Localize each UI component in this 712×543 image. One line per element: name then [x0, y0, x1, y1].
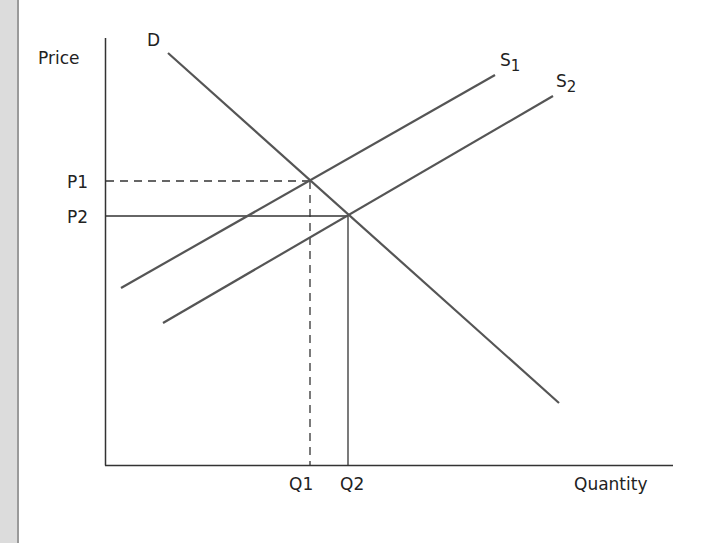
s1-label-main: S — [500, 50, 511, 70]
supply-curve-s2 — [163, 96, 553, 323]
demand-label: D — [147, 30, 160, 50]
p2-tick-label: P2 — [67, 207, 88, 227]
q2-tick-label: Q2 — [340, 474, 364, 494]
q1-tick-label: Q1 — [289, 474, 313, 494]
y-axis-label: Price — [38, 48, 79, 68]
s2-label-main: S — [556, 71, 567, 91]
supply-demand-chart: Price D S1 S2 P1 P2 Q1 Q2 Quantity — [0, 0, 712, 543]
p1-tick-label: P1 — [67, 172, 88, 192]
s1-label-sub: 1 — [511, 57, 521, 75]
s2-label-sub: 2 — [567, 78, 577, 96]
s2-label: S2 — [556, 71, 576, 96]
x-axis-label: Quantity — [574, 474, 647, 494]
s1-label: S1 — [500, 50, 520, 75]
